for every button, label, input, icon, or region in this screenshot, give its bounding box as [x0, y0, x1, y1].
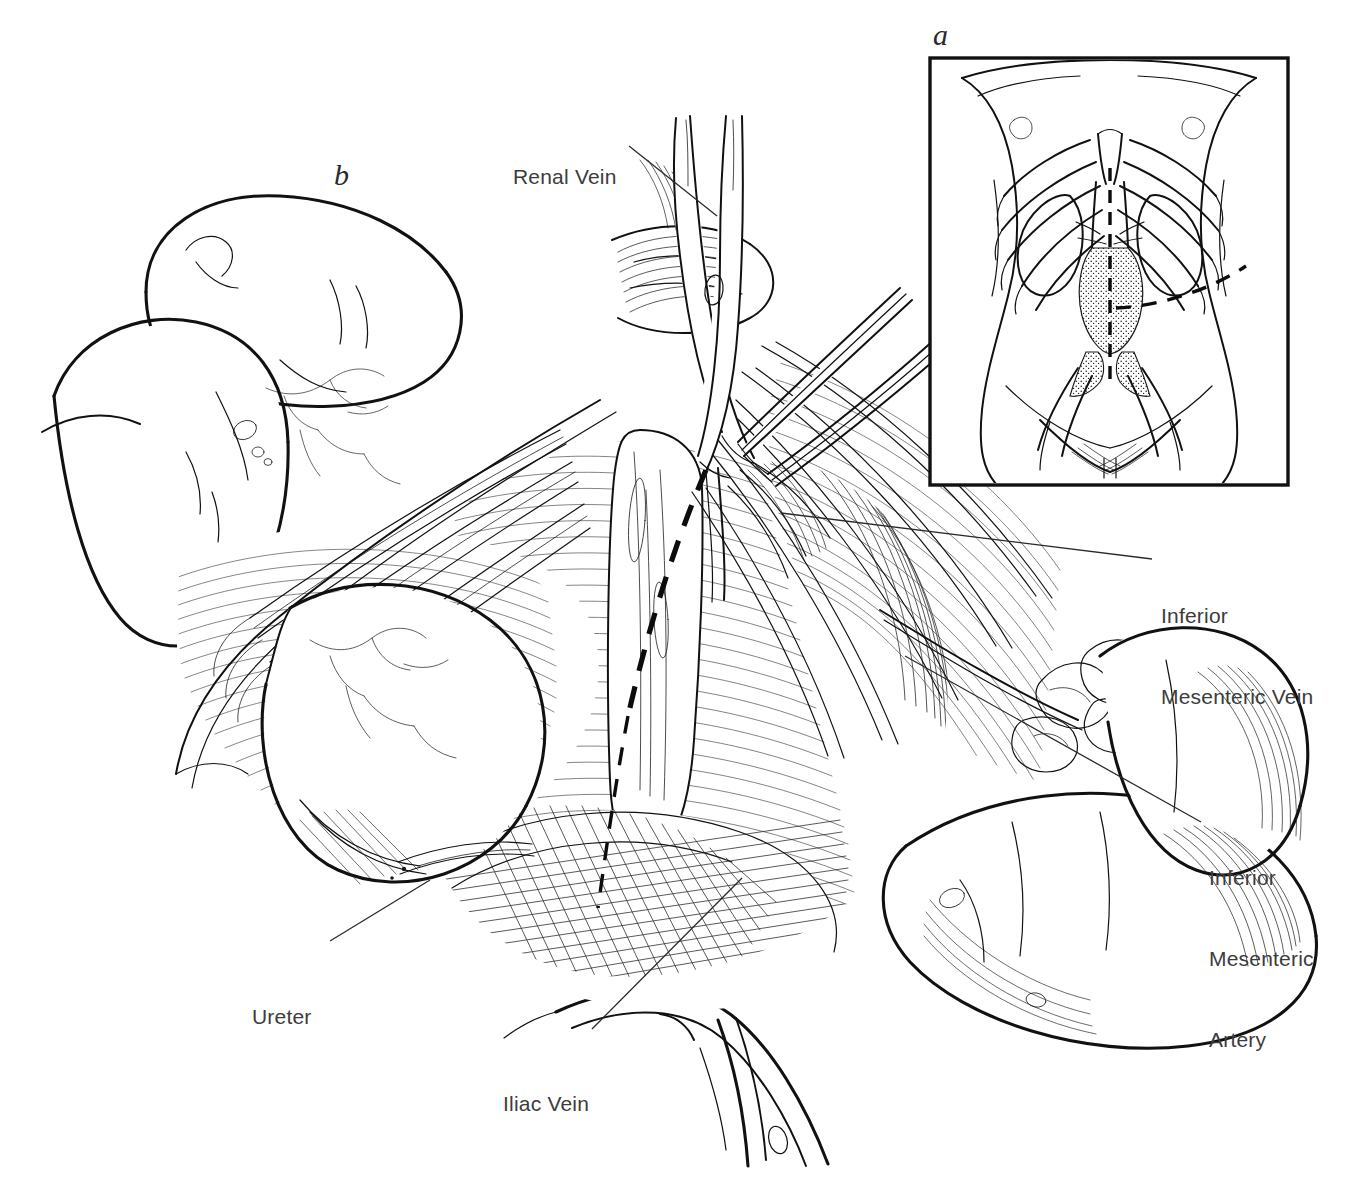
label-inferior-mesenteric-artery: Inferior Mesenteric Artery — [1209, 810, 1314, 1107]
label-renal-vein: Renal Vein — [513, 109, 617, 244]
label-inferior-mesenteric-vein: Inferior Mesenteric Vein — [1161, 548, 1313, 764]
label-imv-line-2: Mesenteric Vein — [1161, 683, 1313, 710]
label-iliac-vein: Iliac Vein — [503, 1036, 589, 1171]
inset-orientation-panel — [930, 58, 1288, 485]
panel-letter-a: a — [933, 20, 948, 50]
small-bowel-loops — [262, 584, 545, 884]
panel-letter-b: b — [334, 160, 349, 190]
label-ureter-line-1: Ureter — [252, 1003, 312, 1030]
surgical-illustration-figure: a b Renal Vein Inferior Mesenteric Vein … — [0, 0, 1345, 1194]
label-renal-vein-line-1: Renal Vein — [513, 163, 617, 190]
label-iliac-vein-line-1: Iliac Vein — [503, 1090, 589, 1117]
label-ima-line-3: Artery — [1209, 1026, 1314, 1053]
label-ureter: Ureter — [252, 949, 312, 1084]
label-ima-line-1: Inferior — [1209, 864, 1314, 891]
label-imv-line-1: Inferior — [1161, 602, 1313, 629]
illustration-canvas — [0, 0, 1345, 1194]
label-ima-line-2: Mesenteric — [1209, 945, 1314, 972]
